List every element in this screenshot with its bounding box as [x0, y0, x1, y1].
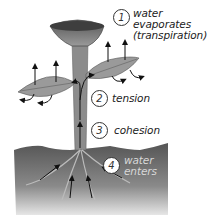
step-2-badge: 2 — [91, 90, 108, 107]
step-4-badge: 4 — [103, 157, 120, 174]
step-3-label: cohesion — [114, 125, 160, 136]
right-leaf — [86, 57, 139, 79]
step-2-label: tension — [112, 93, 150, 104]
step-1-badge: 1 — [113, 9, 130, 26]
step-3-badge: 3 — [91, 122, 108, 139]
step-1-label: water evaporates (transpiration) — [133, 8, 207, 41]
left-leaf — [18, 76, 74, 96]
step-4-label: water enters — [124, 155, 157, 177]
